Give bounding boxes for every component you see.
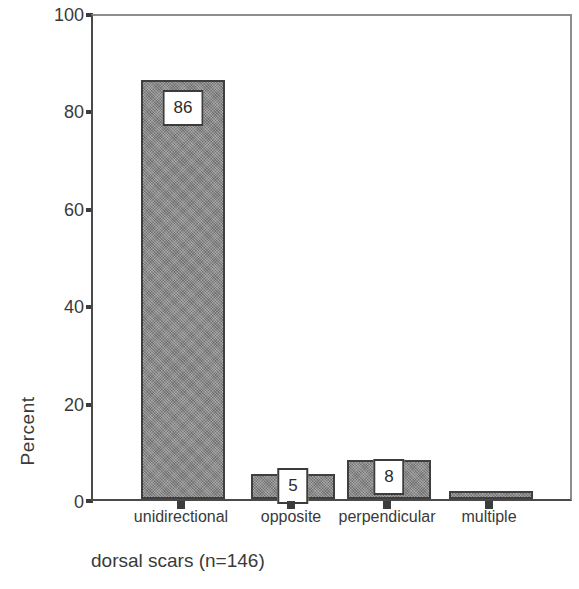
y-tick-label: 60	[38, 201, 84, 219]
bar-value-label: 86	[163, 90, 204, 126]
bar-opposite: 5	[251, 474, 335, 499]
bar-chart-figure: Percent 100 80 60 40 20 0 86 5 8	[0, 0, 579, 589]
x-tick-label-multiple: multiple	[461, 508, 516, 526]
y-tick-label: 20	[38, 396, 84, 414]
bar-value-label: 8	[373, 459, 404, 495]
x-tick-label-opposite: opposite	[261, 508, 322, 526]
plot-area: 86 5 8	[91, 14, 572, 501]
y-tick-label: 100	[38, 6, 84, 24]
x-axis-tick-labels: unidirectional opposite perpendicular mu…	[91, 508, 572, 532]
x-tick-label-unidirectional: unidirectional	[134, 508, 228, 526]
y-tick-label: 0	[38, 493, 84, 511]
y-axis-tick-labels: 100 80 60 40 20 0	[36, 0, 84, 589]
x-tick-label-perpendicular: perpendicular	[339, 508, 436, 526]
bar-perpendicular: 8	[347, 460, 431, 499]
y-tick-label: 80	[38, 103, 84, 121]
bar-series: 86 5 8	[93, 16, 570, 499]
bar-multiple	[449, 491, 533, 499]
bar-value-label: 5	[277, 468, 308, 504]
bar-unidirectional: 86	[141, 80, 225, 499]
y-tick-label: 40	[38, 298, 84, 316]
x-axis-title: dorsal scars (n=146)	[91, 550, 421, 572]
